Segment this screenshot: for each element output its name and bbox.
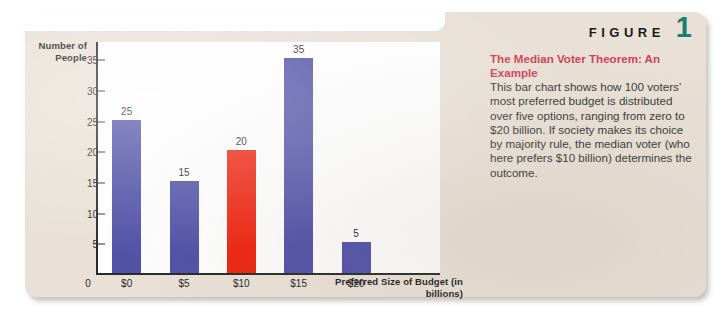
card-corner-notch: [25, 12, 445, 31]
y-axis-tickmark: [98, 244, 105, 245]
bar-value-label: 20: [236, 136, 247, 147]
y-axis-tick-label: 10: [58, 208, 98, 219]
bar: 20$10: [227, 150, 256, 273]
y-axis-tick-label: 5: [58, 239, 98, 250]
x-axis-tick-label: $0: [121, 278, 132, 289]
figure-title: The Median Voter Theorem: An Example: [490, 52, 696, 80]
y-axis-tick-label: 20: [58, 147, 98, 158]
bar: 15$5: [170, 181, 199, 273]
y-axis-tickmark: [98, 60, 105, 61]
x-axis-title: Preferred Size of Budget (in billions): [297, 276, 463, 300]
x-axis-tick-label: $10: [233, 278, 250, 289]
bar-chart: Number of People 510152025303525$015$520…: [25, 30, 465, 297]
y-axis-tickmark: [98, 183, 105, 184]
figure-text-column: FIGURE1 The Median Voter Theorem: An Exa…: [487, 12, 697, 297]
figure-header: FIGURE1: [487, 12, 692, 52]
y-axis-tick-label: 25: [58, 116, 98, 127]
bar: 35$15: [284, 58, 313, 273]
y-axis-tick-label: 35: [58, 55, 98, 66]
bar-value-label: 35: [293, 44, 304, 55]
figure-number: 1: [676, 12, 692, 42]
bar: 5$20: [342, 242, 371, 273]
bar-value-label: 5: [353, 228, 359, 239]
bar-value-label: 15: [178, 167, 189, 178]
bar-value-label: 25: [121, 106, 132, 117]
y-axis-tickmark: [98, 121, 105, 122]
figure-caption-body: This bar chart shows how 100 voters’ mos…: [490, 80, 698, 180]
x-axis-tick-label: $5: [178, 278, 189, 289]
plot-area: 510152025303525$015$520$1035$155$20: [96, 42, 440, 275]
figure-card: Number of People 510152025303525$015$520…: [25, 12, 706, 297]
y-axis-tick-label: 15: [58, 178, 98, 189]
y-axis-tickmark: [98, 91, 105, 92]
y-axis-tickmark: [98, 213, 105, 214]
y-axis-tick-label: 30: [58, 86, 98, 97]
y-axis-tickmark: [98, 152, 105, 153]
x-axis-origin-label: 0: [79, 278, 97, 289]
figure-label: FIGURE: [589, 15, 665, 40]
bar: 25$0: [112, 120, 141, 273]
